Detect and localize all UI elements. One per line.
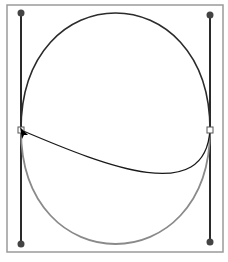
left-top-handle-point[interactable] <box>18 10 25 17</box>
upper-curve[interactable] <box>21 13 210 130</box>
handle-lines <box>21 13 210 244</box>
right-top-handle-point[interactable] <box>207 12 214 19</box>
anchor-points[interactable] <box>18 127 213 133</box>
bezier-canvas[interactable] <box>0 0 228 262</box>
right-bottom-handle-point[interactable] <box>207 239 214 246</box>
lower-curve[interactable] <box>21 130 210 244</box>
right-anchor[interactable] <box>207 127 213 133</box>
left-bottom-handle-point[interactable] <box>18 241 25 248</box>
canvas-frame <box>7 5 223 252</box>
inner-curve-being-dragged[interactable] <box>21 130 210 173</box>
